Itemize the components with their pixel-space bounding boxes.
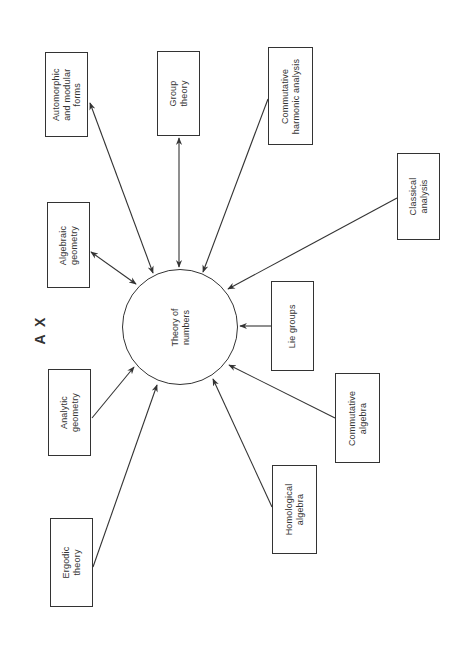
node-lie-groups: Lie groups [271, 281, 314, 371]
node-algebraic-geometry: Algebraic geometry [47, 202, 90, 288]
node-label: Commutative algebra [347, 390, 368, 445]
node-label: Lie groups [287, 304, 298, 348]
edge-homological-algebra [213, 379, 272, 507]
node-commutative-algebra: Commutative algebra [335, 373, 380, 463]
node-homological-algebra: Homological algebra [272, 465, 317, 554]
node-analytic-geometry: Analytic geometry [48, 369, 91, 456]
edge-ergodic-theory [93, 385, 157, 567]
node-label: Algebraic geometry [58, 225, 79, 264]
node-label: Classical analysis [408, 178, 429, 216]
theory-of-numbers-hub: Theory of numbers [122, 269, 238, 385]
node-label: Commutative harmonic analysis [280, 58, 301, 133]
node-commutative-harmonic-analysis: Commutative harmonic analysis [268, 47, 313, 145]
hub-label: Theory of numbers [170, 308, 191, 346]
edge-analytic-geometry [92, 367, 134, 418]
edge-algebraic-geometry [91, 252, 136, 284]
figure-label: A X [32, 316, 48, 345]
node-label: Analytic geometry [59, 393, 80, 432]
edge-classical-analysis [228, 198, 397, 289]
node-group-theory: Group theory [157, 51, 200, 136]
node-classical-analysis: Classical analysis [397, 153, 440, 240]
edge-commutative-algebra [229, 365, 335, 418]
node-label: Automorphic and modular forms [51, 68, 83, 121]
node-label: Group theory [168, 80, 189, 106]
node-automorphic-forms: Automorphic and modular forms [45, 52, 88, 137]
edge-commutative-harmonic-analysis [203, 99, 268, 272]
node-label: Ergodic theory [61, 547, 82, 579]
node-label: Homological algebra [284, 484, 305, 536]
edge-automorphic [90, 103, 153, 273]
node-ergodic-theory: Ergodic theory [50, 518, 93, 607]
